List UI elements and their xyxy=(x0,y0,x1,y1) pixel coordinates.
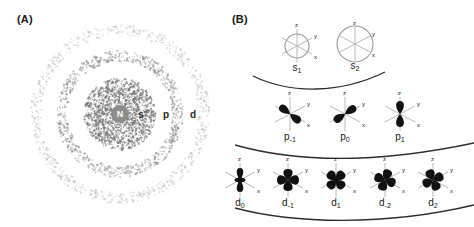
d-orbital-0: zyx xyxy=(218,158,262,202)
orbital-label-main: p xyxy=(340,131,346,142)
nucleus: N xyxy=(111,105,129,123)
d-orbital-2: zyx xyxy=(411,158,455,202)
s-orbital-row-divider xyxy=(253,72,385,89)
figure-root: (A) (B) N s p d zyxs1zyxs2zyxp-1zyxp0zyx… xyxy=(0,0,474,227)
orbital-label-sub: 2 xyxy=(356,65,360,72)
orbital-label-main: p xyxy=(395,131,401,142)
shell-label-d: d xyxy=(190,109,196,120)
svg-text:y: y xyxy=(372,31,375,37)
orbital-label-main: d xyxy=(235,197,241,208)
svg-text:y: y xyxy=(305,167,308,173)
d-orbital-row-divider xyxy=(235,205,474,220)
svg-text:x: x xyxy=(314,54,317,60)
orbital-label-sub: 1 xyxy=(298,67,302,74)
svg-text:x: x xyxy=(353,188,356,194)
d-orbital-label-2: d2 xyxy=(428,197,437,208)
d-orbital-label-1: d1 xyxy=(331,197,340,208)
p-orbital-label-1: p1 xyxy=(395,131,404,142)
svg-text:z: z xyxy=(286,156,289,162)
orbital-label-main: d xyxy=(282,197,288,208)
svg-text:z: z xyxy=(343,90,346,96)
svg-text:y: y xyxy=(417,101,420,107)
d-orbital--2: zyx xyxy=(363,158,407,202)
svg-text:y: y xyxy=(307,101,310,107)
d-orbital--1: zyx xyxy=(266,158,310,202)
svg-text:x: x xyxy=(417,122,420,128)
orbital-label-sub: 0 xyxy=(241,202,245,209)
svg-text:y: y xyxy=(353,167,356,173)
svg-text:z: z xyxy=(238,156,241,162)
svg-text:y: y xyxy=(450,167,453,173)
orbital-label-main: d xyxy=(428,197,434,208)
svg-text:z: z xyxy=(353,20,356,26)
svg-text:y: y xyxy=(314,33,317,39)
orbital-label-sub: 1 xyxy=(401,136,405,143)
orbital-label-sub: 2 xyxy=(434,202,438,209)
s-orbital-label-1: s1 xyxy=(293,62,302,73)
svg-text:x: x xyxy=(257,188,260,194)
svg-text:y: y xyxy=(362,101,365,107)
shell-label-s: s xyxy=(138,109,144,120)
orbital-label-main: p xyxy=(284,131,290,142)
svg-text:y: y xyxy=(402,167,405,173)
panel-b-orbitals: zyxs1zyxs2zyxp-1zyxp0zyxp1zyxd0zyxd-1zyx… xyxy=(235,0,474,227)
svg-text:z: z xyxy=(383,156,386,162)
orbital-label-sub: -1 xyxy=(288,202,294,209)
orbital-label-sub: 0 xyxy=(346,136,350,143)
svg-text:x: x xyxy=(402,188,405,194)
svg-text:z: z xyxy=(398,90,401,96)
svg-text:z: z xyxy=(295,22,298,28)
p-orbital-0: zyx xyxy=(323,92,367,136)
svg-text:x: x xyxy=(305,188,308,194)
d-orbital-label--2: d-2 xyxy=(379,197,391,208)
d-orbital-1: zyx xyxy=(314,158,358,202)
nucleus-label: N xyxy=(117,110,124,119)
svg-text:z: z xyxy=(431,156,434,162)
panel-a-atom-diagram: N s p d xyxy=(0,0,235,227)
orbital-label-sub: -2 xyxy=(385,202,391,209)
svg-text:x: x xyxy=(307,122,310,128)
p-orbital--1: zyx xyxy=(268,92,312,136)
p-orbital-row-divider xyxy=(235,143,474,158)
orbital-label-sub: -1 xyxy=(290,136,296,143)
orbital-label-main: d xyxy=(331,197,337,208)
d-orbital-label--1: d-1 xyxy=(282,197,294,208)
svg-text:y: y xyxy=(257,167,260,173)
svg-text:x: x xyxy=(372,52,375,58)
orbital-label-main: d xyxy=(379,197,385,208)
orbital-label-sub: 1 xyxy=(337,202,341,209)
shell-label-p: p xyxy=(163,109,169,120)
s-orbital-label-2: s2 xyxy=(351,60,360,71)
p-orbital-1: zyx xyxy=(378,92,422,136)
svg-text:z: z xyxy=(334,156,337,162)
p-orbital-label-0: p0 xyxy=(340,131,349,142)
svg-text:x: x xyxy=(362,122,365,128)
d-orbital-label-0: d0 xyxy=(235,197,244,208)
svg-text:x: x xyxy=(450,188,453,194)
p-orbital-label--1: p-1 xyxy=(284,131,296,142)
svg-text:z: z xyxy=(288,90,291,96)
